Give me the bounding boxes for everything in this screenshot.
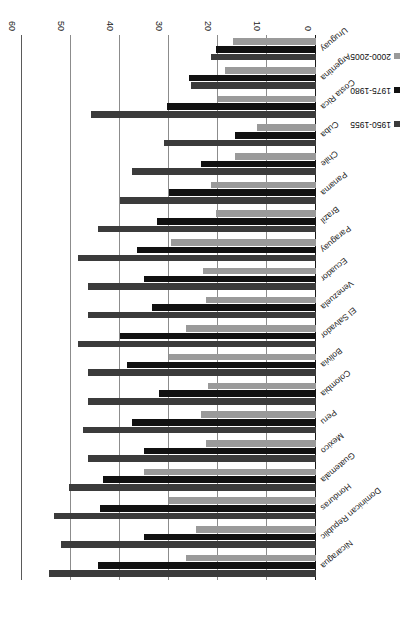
bar-group (22, 354, 316, 376)
tick-label-0: 0 (303, 26, 313, 31)
bar (69, 484, 316, 491)
bar (120, 333, 316, 340)
tick-label-40: 40 (105, 21, 115, 31)
bar (103, 476, 316, 483)
bar-group (22, 268, 316, 290)
bar (83, 427, 316, 434)
bar-group (22, 239, 316, 261)
bar (206, 440, 316, 447)
bar (157, 218, 316, 225)
bar (100, 505, 316, 512)
tick-label-60: 60 (7, 21, 17, 31)
bar (61, 541, 316, 548)
bar (169, 354, 316, 361)
bar-group (22, 297, 316, 319)
legend-label: 1950-1955 (350, 120, 391, 130)
bar-group (22, 526, 316, 548)
bar (120, 197, 316, 204)
bar (216, 46, 316, 53)
legend-swatch-icon (394, 87, 400, 93)
bar (145, 276, 317, 283)
tick-label-50: 50 (56, 21, 66, 31)
bar (211, 54, 316, 61)
chart-legend: 1950-19551975-19802000-2005 (350, 28, 400, 130)
bar-group (22, 411, 316, 433)
bar (132, 419, 316, 426)
bar (98, 562, 316, 569)
bar-group (22, 210, 316, 232)
legend-label: 2000-2005 (350, 52, 391, 62)
bar (186, 325, 316, 332)
bar (152, 304, 316, 311)
bar (91, 111, 316, 118)
bar-group (22, 124, 316, 146)
bar (164, 140, 316, 147)
bar-group (22, 497, 316, 519)
bar (208, 383, 316, 390)
bars-and-gridlines (22, 35, 316, 580)
legend-swatch-icon (394, 121, 400, 127)
bar (218, 96, 316, 103)
bar (225, 67, 316, 74)
bar (88, 283, 316, 290)
bar (196, 526, 316, 533)
bar (171, 239, 316, 246)
bar (235, 153, 316, 160)
bar (201, 161, 316, 168)
bar (137, 247, 316, 254)
bar (78, 341, 316, 348)
legend-item: 2000-2005 (350, 52, 400, 62)
bar (54, 513, 316, 520)
bar-group (22, 325, 316, 347)
bar (98, 226, 316, 233)
bar (169, 189, 316, 196)
legend-item: 1975-1980 (350, 86, 400, 96)
bar (233, 38, 316, 45)
bar-group (22, 182, 316, 204)
category-label: Nicaragua (319, 509, 390, 571)
bar (132, 169, 316, 176)
bar (88, 398, 316, 405)
bar-group (22, 469, 316, 491)
bar (167, 103, 316, 110)
bar (145, 469, 317, 476)
bar-group (22, 440, 316, 462)
legend-label: 1975-1980 (350, 86, 391, 96)
chart-figure-rotated: UruguayArgentinaCosta RicaCubaChilePanam… (0, 0, 406, 635)
bar (216, 210, 316, 217)
legend-swatch-icon (394, 53, 400, 59)
bar (159, 390, 316, 397)
bar (203, 268, 316, 275)
bar (88, 369, 316, 376)
bar (145, 448, 317, 455)
bar (145, 534, 317, 541)
bar (78, 255, 316, 262)
bar (201, 411, 316, 418)
bar-group (22, 67, 316, 89)
bar (191, 82, 316, 89)
bar (127, 362, 316, 369)
bar (189, 75, 316, 82)
bar-group (22, 38, 316, 60)
bar (206, 297, 316, 304)
bar-group (22, 555, 316, 577)
legend-item: 1950-1955 (350, 120, 400, 130)
bar (186, 555, 316, 562)
bar (88, 455, 316, 462)
bar (211, 182, 316, 189)
bar (257, 124, 316, 131)
tick-label-30: 30 (154, 21, 164, 31)
bar (49, 570, 316, 577)
chart-plot-area (22, 35, 316, 580)
tick-label-10: 10 (252, 21, 262, 31)
bar (235, 132, 316, 139)
tick-label-20: 20 (203, 21, 213, 31)
bar (169, 497, 316, 504)
bar (88, 312, 316, 319)
bar-group (22, 383, 316, 405)
bar-group (22, 153, 316, 175)
bar-group (22, 96, 316, 118)
